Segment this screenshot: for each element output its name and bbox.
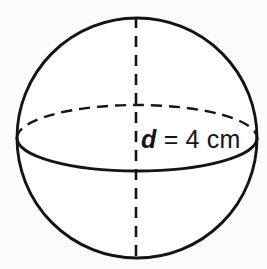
diameter-label: d = 4 cm [141, 125, 241, 153]
sphere-diagram: d = 4 cm [0, 0, 267, 269]
equals-sign: = [164, 125, 179, 153]
diameter-value: 4 cm [186, 125, 241, 153]
diameter-symbol: d [141, 125, 156, 153]
